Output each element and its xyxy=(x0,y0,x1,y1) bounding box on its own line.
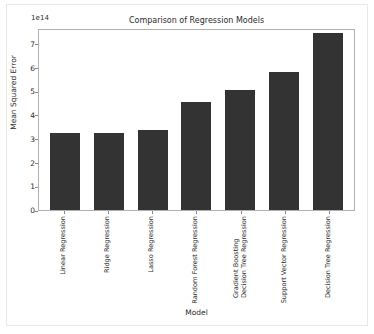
x-tick-label: Ridge Regression xyxy=(104,216,112,273)
x-tick-label: Support Vector Regression xyxy=(281,216,289,303)
x-tick: Decision Tree Regression xyxy=(314,211,344,306)
x-tick-label: Random Forest Regression xyxy=(193,216,201,304)
x-tick: Linear Regression xyxy=(49,211,79,306)
chart-figure: Comparison of Regression Models 1e14 Mea… xyxy=(0,0,374,334)
x-tick-label: Decision Tree Regression xyxy=(325,216,333,298)
x-tick-mark xyxy=(329,211,330,214)
x-tick-mark xyxy=(64,211,65,214)
x-tick-label: Lasso Regression xyxy=(149,216,157,273)
bar xyxy=(269,72,299,210)
x-tick-label: Gradient Boosting Decision Tree Regressi… xyxy=(233,216,248,298)
bar-series xyxy=(39,30,354,210)
x-tick: Random Forest Regression xyxy=(181,211,211,306)
x-tick-mark xyxy=(285,211,286,214)
bar xyxy=(138,130,168,210)
bar xyxy=(181,102,211,210)
x-tick: Support Vector Regression xyxy=(270,211,300,306)
bar xyxy=(313,33,343,210)
x-tick-mark xyxy=(241,211,242,214)
y-axis-offset-text: 1e14 xyxy=(31,14,49,22)
x-tick: Ridge Regression xyxy=(93,211,123,306)
x-tick: Lasso Regression xyxy=(137,211,167,306)
x-axis-label: Model xyxy=(38,308,355,317)
x-tick-mark xyxy=(152,211,153,214)
bar xyxy=(225,90,255,210)
x-tick-mark xyxy=(108,211,109,214)
y-axis-ticks: 01234567 xyxy=(0,29,38,211)
x-tick-label: Linear Regression xyxy=(60,216,68,275)
plot-area xyxy=(38,29,355,211)
x-tick: Gradient Boosting Decision Tree Regressi… xyxy=(226,211,256,306)
x-tick-mark xyxy=(196,211,197,214)
chart-title: Comparison of Regression Models xyxy=(38,16,355,25)
x-axis-ticks: Linear RegressionRidge RegressionLasso R… xyxy=(38,211,355,306)
bar xyxy=(94,133,124,210)
bar xyxy=(50,133,80,210)
